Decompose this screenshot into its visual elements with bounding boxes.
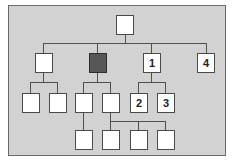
- connector: [97, 43, 98, 53]
- connector: [165, 82, 166, 93]
- connector: [97, 72, 98, 82]
- node-4: 4: [197, 53, 215, 73]
- connector: [165, 121, 166, 130]
- connector: [43, 43, 44, 53]
- connector: [138, 82, 139, 93]
- connector: [83, 82, 111, 83]
- node-3: 3: [157, 93, 175, 113]
- connector: [30, 82, 58, 83]
- node-level2-b1: [75, 93, 93, 113]
- connector: [83, 112, 84, 130]
- connector: [206, 43, 207, 53]
- connector: [43, 43, 207, 44]
- node-level2-a2: [49, 93, 67, 113]
- node-root: [116, 15, 134, 35]
- node-level2-a1: [22, 93, 40, 113]
- connector: [57, 82, 58, 93]
- node-level1-highlighted: [89, 53, 107, 73]
- node-1: 1: [143, 53, 161, 73]
- connector: [43, 72, 44, 82]
- node-level3-b2a: [102, 130, 120, 150]
- node-level3-b2b: [130, 130, 148, 150]
- connector: [138, 82, 166, 83]
- node-level2-b2: [102, 93, 120, 113]
- connector: [30, 82, 31, 93]
- connector: [151, 72, 152, 82]
- node-level1-a: [35, 53, 53, 73]
- connector: [138, 121, 139, 130]
- connector: [110, 82, 111, 93]
- node-level3-b2c: [157, 130, 175, 150]
- connector: [125, 34, 126, 43]
- node-2: 2: [130, 93, 148, 113]
- connector: [151, 43, 152, 53]
- node-level3-b1a: [75, 130, 93, 150]
- connector: [83, 82, 84, 93]
